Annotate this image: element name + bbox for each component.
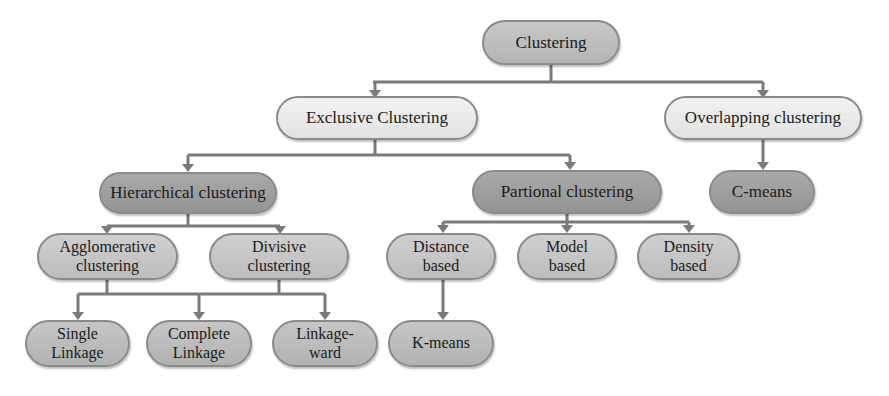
- node-divisive-clustering: Divisive clustering: [209, 233, 349, 280]
- node-complete-linkage: Complete Linkage: [146, 320, 252, 367]
- node-overlapping-clustering: Overlapping clustering: [664, 96, 862, 140]
- node-label: Overlapping clustering: [685, 108, 841, 128]
- node-label: Exclusive Clustering: [306, 108, 448, 128]
- node-label: Divisive clustering: [247, 238, 310, 275]
- node-label: Agglomerative clustering: [60, 238, 156, 275]
- node-label: Partional clustering: [501, 182, 634, 202]
- node-distance-based: Distance based: [386, 233, 496, 280]
- node-k-means: K-means: [388, 320, 494, 367]
- node-linkage-ward: Linkage- ward: [272, 320, 378, 367]
- node-label: Clustering: [516, 33, 587, 53]
- node-clustering: Clustering: [482, 20, 620, 65]
- node-hierarchical-clustering: Hierarchical clustering: [99, 172, 277, 214]
- node-single-linkage: Single Linkage: [25, 320, 130, 367]
- node-label: Density based: [664, 238, 714, 275]
- node-agglomerative-clustering: Agglomerative clustering: [37, 233, 178, 280]
- node-label: Hierarchical clustering: [110, 183, 265, 203]
- node-exclusive-clustering: Exclusive Clustering: [276, 96, 478, 140]
- node-c-means: C-means: [709, 170, 815, 214]
- node-partional-clustering: Partional clustering: [472, 170, 662, 214]
- node-label: C-means: [732, 182, 792, 202]
- node-label: Single Linkage: [51, 325, 103, 362]
- node-label: Linkage- ward: [296, 325, 354, 362]
- node-label: Complete Linkage: [168, 325, 230, 362]
- node-model-based: Model based: [517, 233, 617, 280]
- node-density-based: Density based: [637, 233, 740, 280]
- node-label: Distance based: [413, 238, 469, 275]
- node-label: K-means: [412, 334, 470, 352]
- node-label: Model based: [546, 238, 588, 275]
